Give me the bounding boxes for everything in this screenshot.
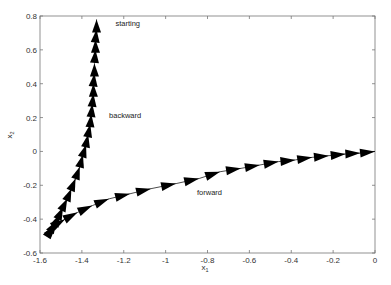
chart: -1.6-1.4-1.2-1-0.8-0.6-0.4-0.20 -0.6-0.4… <box>0 0 391 285</box>
y-axis-label: x2 <box>5 131 15 138</box>
y-tick-label: 0.8 <box>26 12 38 21</box>
x-tick-label: -1 <box>162 256 170 265</box>
x-tick-label: -1.2 <box>117 256 131 265</box>
x-tick-label: -0.6 <box>242 256 256 265</box>
x-tick-label: -0.2 <box>326 256 340 265</box>
y-tick-label: -0.6 <box>23 249 37 258</box>
annotation-backward: backward <box>109 111 141 120</box>
y-tick-label: -0.4 <box>23 215 37 224</box>
x-tick-label: 0 <box>373 256 378 265</box>
y-tick-label: -0.2 <box>23 181 37 190</box>
y-tick-label: 0.2 <box>26 114 38 123</box>
x-tick-label: -0.4 <box>284 256 298 265</box>
x-tick-label: -1.4 <box>75 256 89 265</box>
annotation-starting: starting <box>115 19 140 28</box>
y-tick-label: 0 <box>33 147 38 156</box>
y-tick-label: 0.4 <box>26 80 38 89</box>
annotation-forward: forward <box>197 188 222 197</box>
y-tick-label: 0.6 <box>26 46 38 55</box>
